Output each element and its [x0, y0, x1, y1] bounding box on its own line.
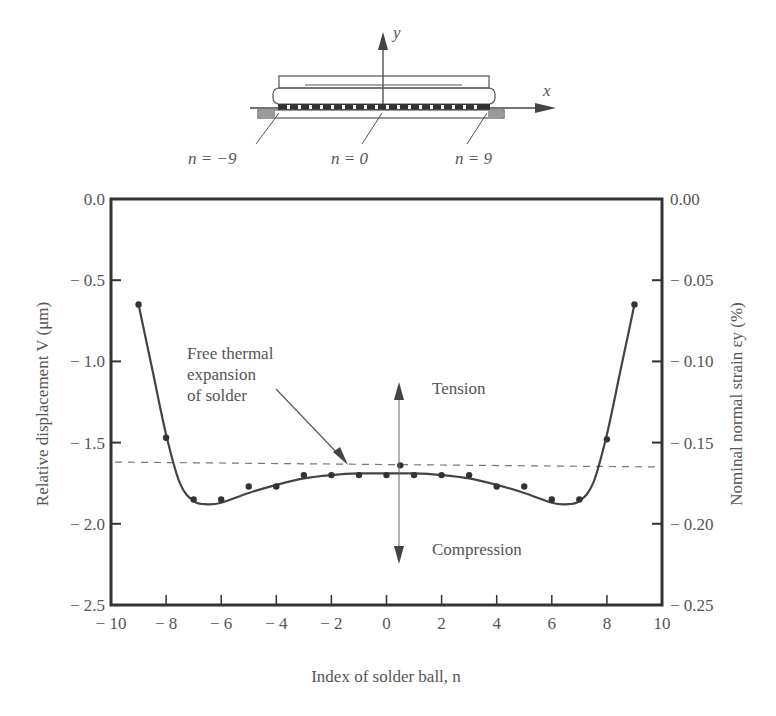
data-point — [549, 496, 555, 502]
data-point — [466, 472, 472, 478]
x-tick-label: 4 — [492, 614, 501, 633]
diagram-x-label: x — [542, 81, 551, 100]
label-n-9: n = 9 — [455, 149, 492, 168]
annotation-free-thermal: Free thermal expansion of solder — [187, 344, 348, 465]
y2-tick-label: − 0.10 — [670, 352, 714, 371]
x-tick-label: − 4 — [265, 614, 288, 633]
data-point — [604, 436, 610, 442]
data-point — [356, 472, 362, 478]
x-tick-label: − 2 — [320, 614, 342, 633]
data-point — [163, 435, 169, 441]
arrowhead-icon — [333, 447, 348, 465]
data-point — [135, 301, 141, 307]
compression-label: Compression — [432, 540, 522, 559]
annotation-arrow — [276, 389, 340, 456]
package-lid — [279, 76, 489, 88]
package-diagram: y x — [188, 23, 556, 168]
data-point — [438, 472, 444, 478]
data-point — [246, 483, 252, 489]
x-tick-label: 8 — [603, 614, 612, 633]
free-thermal-expansion-line — [115, 462, 658, 467]
label-n-0: n = 0 — [331, 149, 368, 168]
svg-text:of solder: of solder — [187, 386, 247, 405]
y-axis-ticks: 0.0− 0.5− 1.0− 1.5− 2.0− 2.5 — [70, 190, 121, 615]
y2-tick-label: − 0.25 — [670, 596, 714, 615]
diagram-x-arrow-icon — [535, 103, 556, 113]
y2-tick-label: − 0.15 — [670, 434, 714, 453]
x-tick-label: − 8 — [155, 614, 177, 633]
x-tick-label: − 10 — [96, 614, 127, 633]
y2-tick-label: − 0.20 — [670, 515, 714, 534]
tension-compression-arrow: Tension Compression — [394, 379, 522, 564]
data-point — [273, 483, 279, 489]
y2-tick-label: 0.00 — [670, 190, 700, 209]
x-axis-ticks: − 10− 8− 6− 4− 20246810 — [96, 595, 671, 633]
data-point — [328, 472, 334, 478]
package-body — [273, 88, 495, 104]
data-point — [383, 472, 389, 478]
svg-text:Free thermal: Free thermal — [187, 344, 274, 363]
chart-figure: y x — [0, 0, 776, 716]
y-tick-label: − 2.5 — [70, 596, 105, 615]
diagram-y-arrow-icon — [378, 32, 388, 50]
y-tick-label: 0.0 — [84, 190, 105, 209]
x-tick-label: 6 — [548, 614, 557, 633]
label-n-minus-9: n = −9 — [188, 149, 237, 168]
data-point — [218, 496, 224, 502]
arrow-up-icon — [394, 382, 404, 400]
svg-text:expansion: expansion — [187, 365, 256, 384]
y-tick-label: − 1.5 — [70, 434, 105, 453]
y2-axis-title: Nominal normal strain εy (%) — [727, 302, 746, 506]
data-point — [494, 483, 500, 489]
tension-label: Tension — [432, 379, 486, 398]
arrow-down-icon — [394, 546, 404, 564]
y2-tick-label: − 0.05 — [670, 271, 714, 290]
data-point — [301, 472, 307, 478]
y-tick-label: − 2.0 — [70, 515, 105, 534]
x-tick-label: 2 — [437, 614, 446, 633]
diagram-y-label: y — [391, 23, 401, 42]
y-axis-title: Relative displacement V (μm) — [33, 302, 52, 506]
data-point — [576, 496, 582, 502]
y-tick-label: − 0.5 — [70, 271, 105, 290]
x-tick-label: 10 — [654, 614, 671, 633]
x-tick-label: 0 — [382, 614, 391, 633]
data-point — [190, 496, 196, 502]
x-tick-label: − 6 — [210, 614, 232, 633]
data-point — [397, 462, 403, 468]
x-axis-title: Index of solder ball, n — [311, 667, 461, 686]
y-tick-label: − 1.0 — [70, 352, 105, 371]
data-point — [631, 301, 637, 307]
data-point — [521, 483, 527, 489]
data-point — [411, 472, 417, 478]
